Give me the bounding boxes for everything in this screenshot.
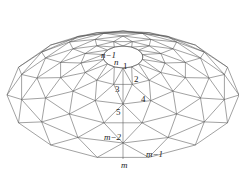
label-m: m bbox=[121, 161, 128, 170]
dome-members bbox=[7, 31, 239, 159]
label-5: 5 bbox=[116, 108, 121, 117]
label-n: n bbox=[114, 58, 119, 67]
label-1: 1 bbox=[123, 62, 128, 71]
label-m-minus-2: m−2 bbox=[104, 133, 121, 142]
label-4: 4 bbox=[141, 95, 146, 104]
label-m-minus-1: m−1 bbox=[146, 150, 163, 159]
label-2: 2 bbox=[134, 75, 139, 84]
label-3: 3 bbox=[115, 85, 120, 94]
